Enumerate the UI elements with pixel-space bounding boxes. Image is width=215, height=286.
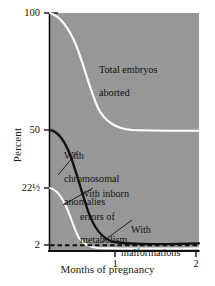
chart-figure: Percent 100 50 22½ 2 1 2 Months of pregn…	[0, 0, 215, 286]
annotation-malformations-line1: With	[131, 224, 180, 235]
y-tick-label-50: 50	[6, 124, 40, 135]
annotation-total-aborted-line1: Total embryos	[99, 64, 157, 75]
y-tick-label-22half: 22½	[6, 182, 40, 193]
y-tick-label-2: 2	[6, 239, 40, 250]
annotation-chromosomal-line1: With	[64, 150, 119, 161]
annotation-malformations-line2: malformations	[121, 247, 180, 258]
x-axis-title: Months of pregnancy	[0, 263, 215, 275]
y-tick-label-100: 100	[6, 7, 40, 18]
annotation-total-embryos-aborted: Total embryos aborted	[99, 53, 157, 110]
annotation-malformations: With malformations	[121, 213, 180, 270]
annotation-inborn-line1: With inborn	[80, 188, 129, 199]
annotation-total-aborted-line2: aborted	[99, 87, 157, 98]
